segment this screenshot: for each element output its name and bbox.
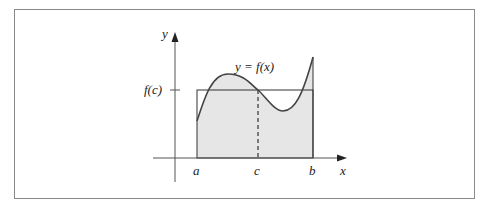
curve-label: y = f(x) bbox=[233, 59, 274, 74]
x-axis-label: x bbox=[339, 163, 346, 178]
y-axis-label: y bbox=[160, 26, 168, 41]
tick-label-b: b bbox=[309, 163, 316, 178]
fc-label: f(c) bbox=[144, 82, 162, 97]
y-axis-arrow-icon bbox=[172, 32, 179, 42]
x-axis-arrow-icon bbox=[337, 155, 347, 162]
mean-value-diagram: y x y = f(x) f(c) a c b bbox=[0, 0, 491, 206]
tick-label-c: c bbox=[254, 163, 260, 178]
tick-label-a: a bbox=[193, 163, 200, 178]
